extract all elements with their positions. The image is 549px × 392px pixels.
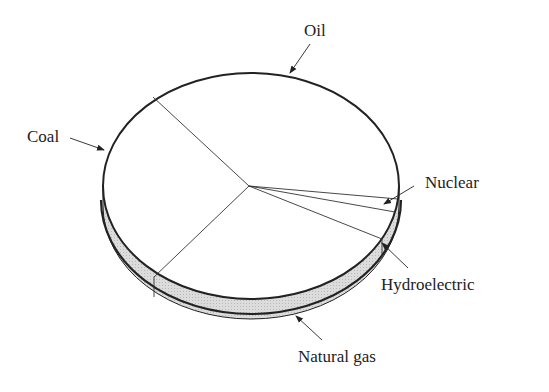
- natural-gas-leader-arrow: [296, 316, 322, 340]
- coal-leader-arrow: [70, 138, 104, 150]
- label-nuclear: Nuclear: [425, 174, 479, 191]
- label-oil: Oil: [304, 22, 326, 39]
- label-coal: Coal: [27, 128, 59, 145]
- pie-chart: [0, 0, 549, 392]
- label-natural-gas: Natural gas: [298, 348, 376, 365]
- hydroelectric-leader-arrow: [382, 243, 408, 268]
- oil-leader-arrow: [290, 44, 310, 73]
- label-hydroelectric: Hydroelectric: [381, 276, 474, 293]
